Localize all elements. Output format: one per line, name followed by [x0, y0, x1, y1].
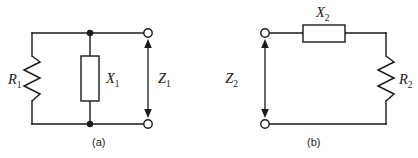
circuit-a-group: R1 X1: [7, 29, 171, 148]
reactance-x2-label: X2: [315, 4, 330, 23]
reactance-x1-label: X1: [105, 70, 120, 89]
circuit-a-junction-dot-bottom: [87, 121, 93, 127]
impedance-z2-arrow: [261, 39, 269, 118]
reactance-x2: [303, 25, 345, 42]
resistor-r2: [378, 56, 394, 101]
resistor-r2-label: R2: [398, 71, 413, 90]
circuit-b-group: X2 R2: [225, 4, 413, 148]
circuit-b-terminal-bottom: [261, 120, 269, 128]
impedance-z1-label: Z1: [158, 70, 171, 89]
impedance-z1-arrow: [144, 39, 152, 118]
circuit-figure: R1 X1: [0, 0, 418, 158]
circuit-a-junction-dot-top: [87, 30, 93, 36]
caption-a: (a): [92, 136, 105, 148]
reactance-x1: [81, 56, 99, 101]
caption-b: (b): [307, 136, 320, 148]
resistor-r1-label: R1: [7, 71, 22, 90]
resistor-r1: [24, 56, 40, 101]
impedance-z2-label: Z2: [225, 70, 238, 89]
circuit-b-terminal-top: [261, 29, 269, 37]
circuit-a-terminal-bottom: [144, 120, 152, 128]
circuit-a-terminal-top: [144, 29, 152, 37]
